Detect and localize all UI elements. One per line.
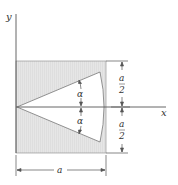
upper-half-numerator: a [119,73,124,83]
width-label: a [57,165,62,175]
angle-label-upper: α [77,89,83,99]
x-axis-label: x [161,107,167,118]
upper-half-denominator: 2 [118,85,125,95]
diagram-canvas: y x α α a 2 a 2 [0,0,178,185]
lower-half-denominator: 2 [118,131,125,141]
y-axis-label: y [5,11,12,22]
lower-half-numerator: a [119,119,124,129]
angle-label-lower: α [77,116,83,126]
